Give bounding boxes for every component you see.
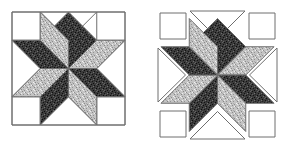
corner-square-bottom-right[interactable] — [97, 97, 125, 125]
loose-corner-square-bottom-right[interactable] — [249, 111, 275, 137]
block-exploded[interactable] — [158, 11, 277, 139]
corner-square-top-left[interactable] — [12, 12, 40, 40]
loose-corner-square-top-right[interactable] — [249, 13, 275, 39]
corner-square-bottom-left[interactable] — [12, 97, 40, 125]
loose-corner-square-bottom-left[interactable] — [160, 111, 186, 137]
figure-canvas — [0, 0, 288, 150]
corner-square-top-right[interactable] — [97, 12, 125, 40]
loose-corner-square-top-left[interactable] — [160, 13, 186, 39]
quilt-block-diagram — [0, 0, 288, 150]
block-assembled[interactable] — [12, 12, 125, 125]
